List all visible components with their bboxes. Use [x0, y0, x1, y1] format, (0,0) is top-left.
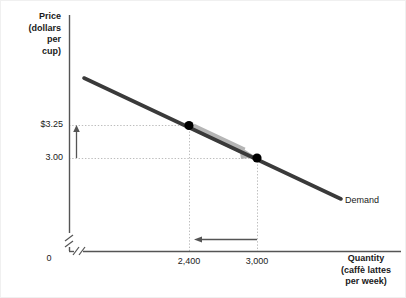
y-axis-break-marks [65, 235, 73, 247]
y-tick-label-300: 3.00 [27, 152, 63, 163]
x-tick-label-3000: 3,000 [237, 256, 277, 267]
y-axis-title-line-4: cup) [42, 46, 61, 56]
data-point-3000-300 [252, 153, 261, 162]
data-point-2400-325 [184, 121, 193, 130]
price-increase-arrow [73, 125, 80, 158]
x-axis-title-line-3: per week) [345, 276, 387, 286]
y-tick-label-325: $3.25 [27, 119, 63, 130]
y-axis-title: Price(dollarspercup) [9, 11, 61, 57]
x-axis-title-line-1: Quantity [348, 253, 385, 263]
x-axis-title: Quantity(caffè lattesper week) [329, 253, 403, 288]
quantity-decrease-arrow [194, 236, 257, 242]
y-axis-title-line-2: (dollars [28, 23, 61, 33]
demand-curve-chart: Price(dollarspercup) Quantity(caffè latt… [0, 0, 406, 298]
x-tick-label-2400: 2,400 [169, 256, 209, 267]
origin-label: 0 [43, 253, 55, 264]
demand-curve-line [84, 78, 341, 199]
y-axis-title-line-3: per [47, 34, 61, 44]
demand-curve-label: Demand [345, 195, 379, 206]
y-axis-title-line-1: Price [39, 11, 61, 21]
x-axis-title-line-2: (caffè lattes [341, 265, 391, 275]
